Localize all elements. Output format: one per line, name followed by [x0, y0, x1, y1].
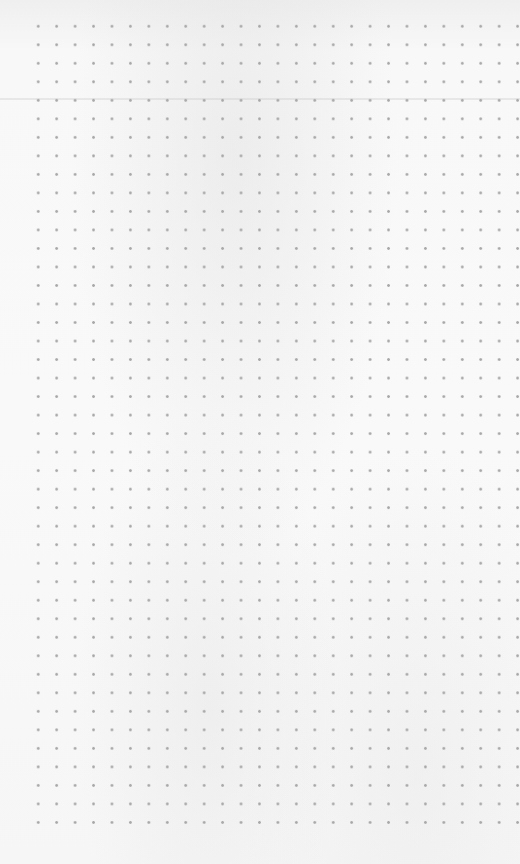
dot-grid-pattern [29, 17, 520, 833]
dot-grid-paper [0, 0, 520, 864]
